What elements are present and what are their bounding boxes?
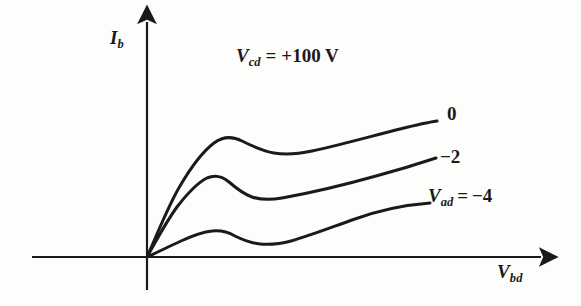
- condition-symbol-letter: V: [236, 45, 249, 66]
- curve-label-bottom-subscript: ad: [441, 195, 454, 209]
- curve-label-bottom-letter: V: [428, 185, 441, 206]
- curve-label-bottom-equals: =: [453, 185, 472, 206]
- condition-annotation: Vcd=+100 V: [236, 46, 339, 68]
- curve-label-bottom-value: −4: [472, 185, 492, 206]
- y-axis-label: Ib: [110, 28, 124, 50]
- curve-label-top: 0: [447, 104, 457, 123]
- curve-label-bottom-symbol: Vad: [428, 185, 453, 206]
- curve-label-middle: −2: [440, 147, 460, 166]
- x-axis-label-symbol: V: [497, 261, 510, 282]
- x-axis-label: Vbd: [497, 262, 523, 284]
- condition-symbol-subscript: cd: [249, 55, 261, 69]
- curve-vad-minus4: [147, 203, 430, 257]
- curve-label-bottom: Vad=−4: [428, 186, 492, 208]
- condition-symbol: Vcd: [236, 45, 261, 66]
- condition-equals: =: [261, 45, 282, 66]
- condition-value: +100 V: [281, 45, 338, 66]
- x-axis-label-subscript: bd: [510, 271, 523, 285]
- y-axis-label-subscript: b: [117, 37, 124, 51]
- figure-characteristic-curves: Ib Vbd Vcd=+100 V 0 −2 Vad=−4: [0, 0, 581, 306]
